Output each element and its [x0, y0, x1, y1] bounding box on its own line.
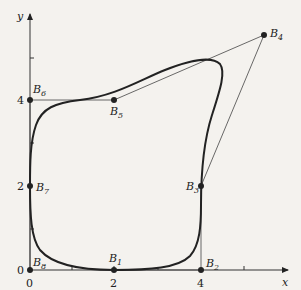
- y-tick-label-4: 4: [17, 94, 24, 107]
- b-spline-figure: x y 0 2 4 0 2 4 B1 B2 B3 B4 B5 B6 B7 B8: [0, 0, 301, 290]
- point-b2: [198, 267, 204, 273]
- y-tick-label-2: 2: [17, 180, 24, 193]
- point-b1: [111, 267, 117, 273]
- point-b7: [27, 183, 33, 189]
- label-b2: B2: [205, 257, 219, 272]
- label-b1: B1: [108, 252, 122, 267]
- label-b8: B8: [32, 256, 46, 271]
- label-b7: B7: [35, 181, 50, 196]
- b-spline-curve: [30, 60, 222, 270]
- control-polygon: [30, 35, 264, 270]
- label-b5: B5: [109, 105, 123, 120]
- x-tick-label-2: 2: [110, 277, 117, 290]
- point-b5: [111, 97, 117, 103]
- y-tick-label-0: 0: [17, 264, 24, 277]
- label-b3: B3: [185, 180, 199, 195]
- x-tick-label-4: 4: [197, 277, 204, 290]
- x-axis-label: x: [282, 276, 289, 289]
- point-b4: [261, 32, 267, 38]
- y-axis-label: y: [16, 10, 24, 23]
- control-points: [27, 32, 267, 273]
- x-tick-label-0: 0: [26, 277, 33, 290]
- label-b4: B4: [269, 27, 283, 42]
- point-b6: [27, 97, 33, 103]
- label-b6: B6: [32, 83, 46, 98]
- diagram-svg: x y 0 2 4 0 2 4 B1 B2 B3 B4 B5 B6 B7 B8: [0, 0, 301, 290]
